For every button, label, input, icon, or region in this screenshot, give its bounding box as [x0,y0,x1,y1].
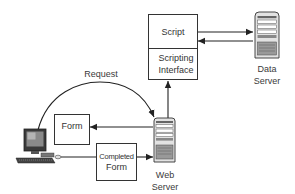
completed-form-box: Completed Form [96,143,137,181]
script-label: Script [149,15,197,49]
completed-form-label-line1: Completed [99,152,133,162]
form-box: Form [54,114,90,145]
script-box: Script Scripting Interface [148,14,198,80]
web-server-icon [154,118,175,162]
web-server-label: Web Server [150,169,180,193]
form-label: Form [55,115,89,144]
data-server-icon [255,12,279,58]
scripting-interface-label: Scripting Interface [149,48,203,79]
web-scripting-diagram: Script Scripting Interface Form Complete… [0,0,295,194]
request-label: Request [78,69,124,80]
data-server-label: Data Server [252,63,282,87]
completed-form-label-line2: Form [106,162,127,173]
